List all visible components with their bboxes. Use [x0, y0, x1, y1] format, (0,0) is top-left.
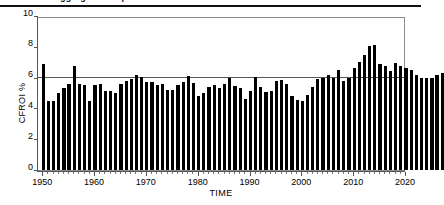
x-minor-tick	[213, 172, 214, 174]
x-minor-tick	[47, 172, 48, 174]
bar	[67, 84, 70, 170]
x-minor-tick	[260, 172, 261, 174]
bar	[218, 88, 221, 170]
bar	[156, 85, 159, 170]
bar	[264, 92, 267, 170]
y-tick-label: 10	[23, 8, 33, 17]
x-minor-tick	[141, 172, 142, 174]
y-tick-label: 8	[28, 39, 33, 48]
y-tick-label: 2	[28, 131, 33, 140]
x-minor-tick	[332, 172, 333, 174]
x-minor-tick	[125, 172, 126, 174]
bar	[285, 84, 288, 170]
bar	[327, 75, 330, 170]
y-tick	[34, 78, 38, 79]
x-minor-tick	[369, 172, 370, 174]
x-minor-tick	[239, 172, 240, 174]
bar	[239, 88, 242, 170]
x-minor-tick	[151, 172, 152, 174]
bar	[145, 82, 148, 170]
y-tick	[34, 47, 38, 48]
bar	[337, 70, 340, 170]
bar	[290, 96, 293, 170]
x-minor-tick	[255, 172, 256, 174]
x-minor-tick	[322, 172, 323, 174]
x-minor-tick	[182, 172, 183, 174]
bar	[332, 78, 335, 170]
x-tick-label: 2000	[291, 177, 311, 187]
bar	[425, 78, 428, 170]
bar	[410, 70, 413, 170]
bar	[244, 99, 247, 170]
bar	[389, 71, 392, 170]
bar	[358, 62, 361, 170]
x-minor-tick	[99, 172, 100, 174]
x-minor-tick	[68, 172, 69, 174]
bar	[109, 91, 112, 170]
bar	[213, 85, 216, 170]
x-minor-tick	[58, 172, 59, 174]
bar	[280, 80, 283, 170]
bar	[415, 75, 418, 170]
y-tick	[34, 108, 38, 109]
bar	[161, 84, 164, 170]
x-minor-tick	[281, 172, 282, 174]
bar	[47, 101, 50, 170]
x-minor-tick	[156, 172, 157, 174]
bar	[316, 79, 319, 170]
bar-series	[38, 18, 404, 170]
bar	[301, 101, 304, 170]
bar	[176, 85, 179, 170]
y-tick-label: 4	[28, 100, 33, 109]
bar	[104, 91, 107, 170]
y-axis-title: CFROI %	[17, 82, 27, 123]
bar	[270, 91, 273, 170]
bar	[135, 75, 138, 170]
bar	[150, 82, 153, 170]
x-minor-tick	[275, 172, 276, 174]
plot-area	[37, 17, 405, 171]
x-minor-tick	[374, 172, 375, 174]
x-minor-tick	[286, 172, 287, 174]
x-minor-tick	[364, 172, 365, 174]
bar	[42, 64, 45, 170]
x-minor-tick	[244, 172, 245, 174]
x-minor-tick	[265, 172, 266, 174]
x-tick	[405, 172, 406, 176]
x-minor-tick	[358, 172, 359, 174]
bar	[83, 85, 86, 170]
x-minor-tick	[177, 172, 178, 174]
bar	[430, 78, 433, 170]
x-minor-tick	[317, 172, 318, 174]
bar	[254, 77, 257, 170]
bar	[114, 93, 117, 170]
x-minor-tick	[224, 172, 225, 174]
x-minor-tick	[63, 172, 64, 174]
x-minor-tick	[53, 172, 54, 174]
x-tick	[301, 172, 302, 176]
x-minor-tick	[187, 172, 188, 174]
horizontal-rule	[0, 5, 421, 7]
x-minor-tick	[208, 172, 209, 174]
bar	[259, 87, 262, 170]
bar	[394, 63, 397, 170]
bar	[99, 84, 102, 170]
x-tick	[94, 172, 95, 176]
bar	[420, 78, 423, 170]
x-minor-tick	[115, 172, 116, 174]
x-tick-label: 2010	[343, 177, 363, 187]
x-tick-label: 2020	[395, 177, 415, 187]
bar	[275, 81, 278, 170]
bar	[202, 93, 205, 170]
bar	[378, 64, 381, 170]
x-axis-title: TIME	[37, 188, 405, 198]
x-minor-tick	[104, 172, 105, 174]
y-tick	[34, 16, 38, 17]
x-minor-tick	[84, 172, 85, 174]
x-minor-tick	[89, 172, 90, 174]
x-minor-tick	[343, 172, 344, 174]
x-axis: 19501960197019801990200020102020	[37, 171, 405, 172]
x-tick	[198, 172, 199, 176]
x-minor-tick	[172, 172, 173, 174]
x-minor-tick	[192, 172, 193, 174]
